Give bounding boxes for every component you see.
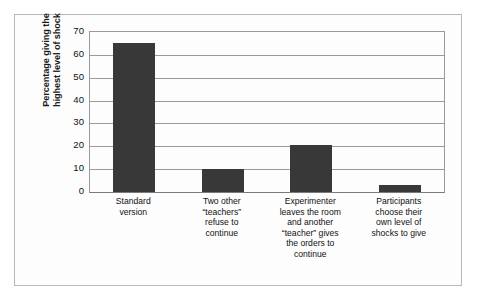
y-tick-label-30: 30	[62, 117, 84, 127]
category-label-line: Standard	[92, 196, 175, 207]
bar	[379, 185, 421, 192]
x-axis-category-labels: StandardversionTwo other“teachers”refuse…	[89, 196, 443, 286]
bar-chart: Percentage giving the highest level of s…	[0, 0, 478, 308]
category-label-line: leaves the room	[269, 207, 352, 218]
category-label-line: version	[92, 207, 175, 218]
category-label-line: “teacher” gives	[269, 228, 352, 239]
category-label-line: continue	[181, 228, 264, 239]
category-label: Standardversion	[92, 196, 175, 217]
category-label-line: the orders to	[269, 238, 352, 249]
bar	[290, 145, 332, 192]
y-tick-label-70: 70	[62, 26, 84, 36]
y-tick-label-10: 10	[62, 163, 84, 173]
category-label: Experimenterleaves the roomand another“t…	[269, 196, 352, 260]
category-label: Participantschoose theirown level ofshoc…	[358, 196, 441, 238]
bar	[113, 43, 155, 192]
category-label-line: refuse to	[181, 217, 264, 228]
y-axis-tick-labels: 010203040506070	[60, 31, 84, 191]
y-tick-label-0: 0	[62, 186, 84, 196]
y-tick-label-60: 60	[62, 49, 84, 59]
y-tick-label-50: 50	[62, 72, 84, 82]
plot-area	[89, 31, 445, 193]
category-label-line: continue	[269, 249, 352, 260]
y-tick-label-20: 20	[62, 140, 84, 150]
category-label-line: shocks to give	[358, 228, 441, 239]
category-label-line: own level of	[358, 217, 441, 228]
category-label-line: “teachers”	[181, 207, 264, 218]
category-label-line: Experimenter	[269, 196, 352, 207]
category-label-line: and another	[269, 217, 352, 228]
category-label-line: Two other	[181, 196, 264, 207]
category-label-line: Participants	[358, 196, 441, 207]
y-axis-title-line-1: Percentage giving the	[41, 13, 52, 107]
category-label-line: choose their	[358, 207, 441, 218]
bar	[202, 169, 244, 192]
category-label: Two other“teachers”refuse tocontinue	[181, 196, 264, 238]
y-tick-label-40: 40	[62, 95, 84, 105]
